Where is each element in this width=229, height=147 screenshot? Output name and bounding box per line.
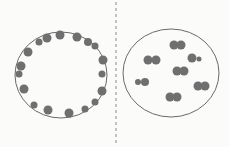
left-cell-particle	[92, 99, 99, 106]
left-cell	[15, 31, 108, 119]
left-cell-particle	[16, 71, 23, 78]
right-cell-particle	[180, 67, 189, 76]
right-cell-particle	[177, 41, 186, 50]
diagram-canvas	[0, 0, 229, 147]
right-cell-particle	[197, 57, 202, 62]
left-cell-particle	[82, 106, 89, 113]
cell-diagram	[0, 0, 229, 147]
left-cell-particle	[56, 31, 65, 40]
right-cell-particle	[152, 56, 161, 65]
left-cell-particle	[31, 102, 38, 109]
left-cell-particle	[99, 71, 106, 78]
left-cell-particle	[36, 39, 43, 46]
left-cell-particle	[43, 34, 52, 43]
left-cell-particle	[99, 56, 108, 65]
left-cell-particle	[65, 109, 74, 118]
right-cell-particle	[188, 54, 197, 63]
right-cell-particle	[141, 78, 149, 86]
left-cell-particle	[92, 43, 99, 50]
right-cell-particle	[201, 82, 210, 91]
left-cell-particle	[17, 62, 26, 71]
left-cell-particle	[73, 33, 82, 42]
right-cell-particle	[144, 56, 153, 65]
right-cell-particle	[173, 93, 182, 102]
left-cell-particle	[20, 85, 29, 94]
right-cell-particle	[135, 79, 141, 85]
left-cell-particle	[44, 106, 53, 115]
left-cell-particle	[84, 38, 92, 46]
left-cell-particle	[98, 87, 107, 96]
left-cell-particle	[24, 48, 33, 57]
right-cell	[123, 29, 219, 117]
